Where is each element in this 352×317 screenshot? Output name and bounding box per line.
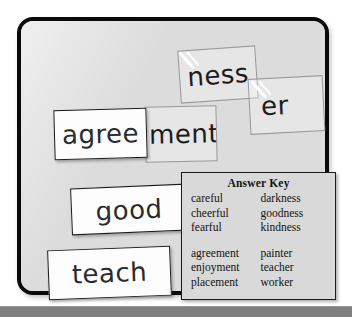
word-card-ment[interactable]: ment [144,105,217,162]
answer-key-cell: agreement [191,246,257,261]
screenshot-stage: ness er ment agree good teach Answer Key… [0,0,352,317]
answer-key-cell: painter [261,246,327,261]
bottom-status-bar [0,306,352,317]
answer-key-cell: cheerful [191,206,257,221]
answer-key-group-divider [191,235,326,246]
answer-key-group-nouns: agreement painter enjoyment teacher plac… [191,246,326,290]
answer-key-panel: Answer Key careful darkness cheerful goo… [181,172,336,300]
answer-key-cell: kindness [261,220,327,235]
answer-key-cell: worker [261,275,327,290]
word-card-teach-label: teach [48,256,170,291]
word-card-er[interactable]: er [248,75,326,135]
answer-key-title: Answer Key [191,177,326,189]
answer-key-cell: fearful [191,220,257,235]
word-card-agree[interactable]: agree [53,108,147,161]
word-card-good-label: good [71,192,186,227]
word-card-agree-label: agree [55,118,147,151]
answer-key-cell: placement [191,275,257,290]
answer-key-cell: goodness [261,206,327,221]
answer-key-cell: darkness [261,191,327,206]
word-card-teach[interactable]: teach [47,246,172,301]
word-card-good[interactable]: good [70,184,188,236]
answer-key-group-adjectives: careful darkness cheerful goodness fearf… [191,191,326,235]
word-card-ness-label: ness [179,57,257,92]
word-card-er-label: er [260,88,323,121]
answer-key-cell: careful [191,191,257,206]
word-card-ment-label: ment [149,118,217,149]
word-card-ness[interactable]: ness [177,45,259,103]
answer-key-cell: enjoyment [191,260,257,275]
answer-key-cell: teacher [261,260,327,275]
